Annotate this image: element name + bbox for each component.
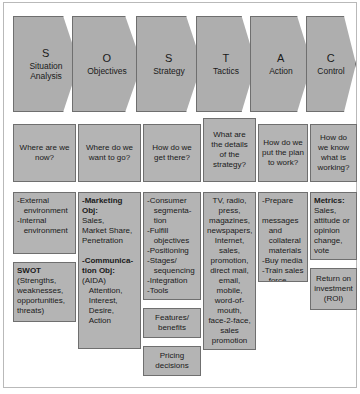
- detail-line: -Tools: [147, 286, 197, 296]
- detail-line: (AIDA): [82, 276, 137, 286]
- question-text: How do we know what is working?: [314, 133, 353, 173]
- question-box-situation-analysis: Where are we now?: [13, 124, 76, 182]
- detail-line: mouth,: [207, 306, 252, 316]
- detail-line: Internet,: [207, 236, 252, 246]
- detail-line: collateral: [262, 236, 304, 246]
- detail-line: and: [262, 226, 304, 236]
- detail-line: -Buy media: [262, 256, 304, 266]
- detail-line: mobile,: [207, 286, 252, 296]
- question-text: Where do we want to go?: [82, 143, 137, 163]
- stage-name: Action: [266, 66, 296, 76]
- detail-line: email,: [207, 276, 252, 286]
- detail-box-objectives: -Marketing Obj: Sales, Market Share, Pen…: [78, 192, 141, 349]
- detail-box-features-benefits: Features/ benefits: [143, 308, 201, 338]
- detail-line: Sales,: [82, 216, 137, 226]
- detail-box-situation-environment: -External environment -Internal environm…: [13, 192, 76, 254]
- detail-line: Features/: [155, 313, 189, 323]
- detail-line: -Fulfill: [147, 226, 197, 236]
- detail-box-swot: SWOT (Strengths, weaknesses, opportuniti…: [13, 262, 76, 322]
- detail-line: TV, radio,: [207, 196, 252, 206]
- marketing-obj-header: -Marketing: [82, 196, 137, 206]
- detail-line: newspapers,: [207, 226, 252, 236]
- detail-line: -Internal: [17, 216, 72, 226]
- detail-line: objectives: [147, 236, 197, 246]
- stage-chevron-tactics[interactable]: T Tactics: [196, 16, 256, 112]
- question-box-tactics: What are the details of the strategy?: [203, 118, 256, 182]
- question-box-strategy: How do we get there?: [143, 124, 201, 182]
- detail-line: -Prepare: [262, 196, 304, 206]
- stage-chevron-row: S Situation Analysis O Objectives S Stra…: [0, 0, 360, 118]
- detail-line: weaknesses,: [17, 286, 72, 296]
- detail-line: -Integration: [147, 276, 197, 286]
- question-box-control: How do we know what is working?: [310, 124, 357, 182]
- detail-box-pricing-decisions: Pricing decisions: [143, 346, 201, 376]
- detail-line: force: [262, 276, 304, 282]
- detail-line: promotion,: [207, 256, 252, 266]
- detail-line: environment: [17, 206, 72, 216]
- stage-chevron-action[interactable]: A Action: [250, 16, 312, 112]
- stage-letter: S: [165, 52, 173, 65]
- detail-box-action: -Prepare messages and collateral materia…: [258, 192, 308, 282]
- stage-name: Strategy: [150, 66, 188, 76]
- stage-name: Situation Analysis: [14, 61, 78, 81]
- detail-box-roi: Return on investment (ROI): [310, 268, 357, 310]
- spacer: [82, 246, 137, 256]
- detail-line: Pricing: [155, 351, 188, 361]
- detail-line: tion: [147, 216, 197, 226]
- detail-line: change,: [314, 236, 353, 246]
- detail-line: opportunities,: [17, 296, 72, 306]
- stage-letter: S: [42, 47, 50, 60]
- detail-line: (ROI): [314, 294, 353, 304]
- stage-name: Control: [314, 66, 347, 76]
- detail-box-strategy: -Consumer segmenta- tion -Fulfill object…: [143, 192, 201, 300]
- stage-name: Objectives: [84, 66, 130, 76]
- question-box-objectives: Where do we want to go?: [78, 124, 141, 182]
- detail-line: magazines,: [207, 216, 252, 226]
- detail-line: investment: [314, 284, 353, 294]
- stage-letter: T: [222, 52, 229, 65]
- communication-obj-header: -Communica-: [82, 256, 137, 266]
- detail-line: decisions: [155, 361, 188, 371]
- detail-line: Market Share,: [82, 226, 137, 236]
- detail-line: Interest,: [82, 296, 137, 306]
- stage-letter: A: [277, 52, 285, 65]
- question-box-action: How do we put the plan to work?: [258, 124, 308, 182]
- detail-line: -Train sales: [262, 266, 304, 276]
- stage-chevron-strategy[interactable]: S Strategy: [136, 16, 202, 112]
- detail-line: -Consumer: [147, 196, 197, 206]
- detail-line: direct mail,: [207, 266, 252, 276]
- detail-line: Penetration: [82, 236, 137, 246]
- question-text: How do we put the plan to work?: [262, 138, 304, 168]
- detail-box-tactics: TV, radio, press, magazines, newspapers,…: [203, 192, 256, 350]
- stage-chevron-control[interactable]: C Control: [306, 16, 356, 112]
- detail-line: press,: [207, 206, 252, 216]
- question-text: How do we get there?: [147, 143, 197, 163]
- detail-line: segmenta-: [147, 206, 197, 216]
- detail-line: word-of-: [207, 296, 252, 306]
- detail-line: promotion: [207, 336, 252, 346]
- detail-line: -External: [17, 196, 72, 206]
- stage-name: Tactics: [210, 66, 242, 76]
- stage-chevron-objectives[interactable]: O Objectives: [72, 16, 142, 112]
- communication-obj-header-cont: tion Obj:: [82, 266, 137, 276]
- detail-line: materials: [262, 246, 304, 256]
- detail-line: threats): [17, 306, 72, 316]
- stage-letter: C: [327, 52, 335, 65]
- stage-letter: O: [102, 52, 111, 65]
- detail-line: -Positioning: [147, 246, 197, 256]
- detail-box-metrics: Metrics: Sales, attitude or opinion chan…: [310, 192, 357, 260]
- marketing-obj-header-cont: Obj:: [82, 206, 137, 216]
- detail-line: Action: [82, 316, 137, 326]
- question-text: What are the details of the strategy?: [207, 130, 252, 170]
- detail-line: sequencing: [147, 266, 197, 276]
- metrics-header: Metrics:: [314, 196, 353, 206]
- detail-line: benefits: [155, 323, 189, 333]
- detail-line: Sales,: [314, 206, 353, 216]
- stage-chevron-situation-analysis[interactable]: S Situation Analysis: [13, 16, 79, 112]
- detail-line: environment: [17, 226, 72, 236]
- detail-line: sales,: [207, 246, 252, 256]
- swot-header: SWOT: [17, 266, 72, 276]
- detail-line: Return on: [314, 274, 353, 284]
- sostac-diagram: S Situation Analysis O Objectives S Stra…: [0, 0, 360, 394]
- detail-line: messages: [262, 206, 304, 226]
